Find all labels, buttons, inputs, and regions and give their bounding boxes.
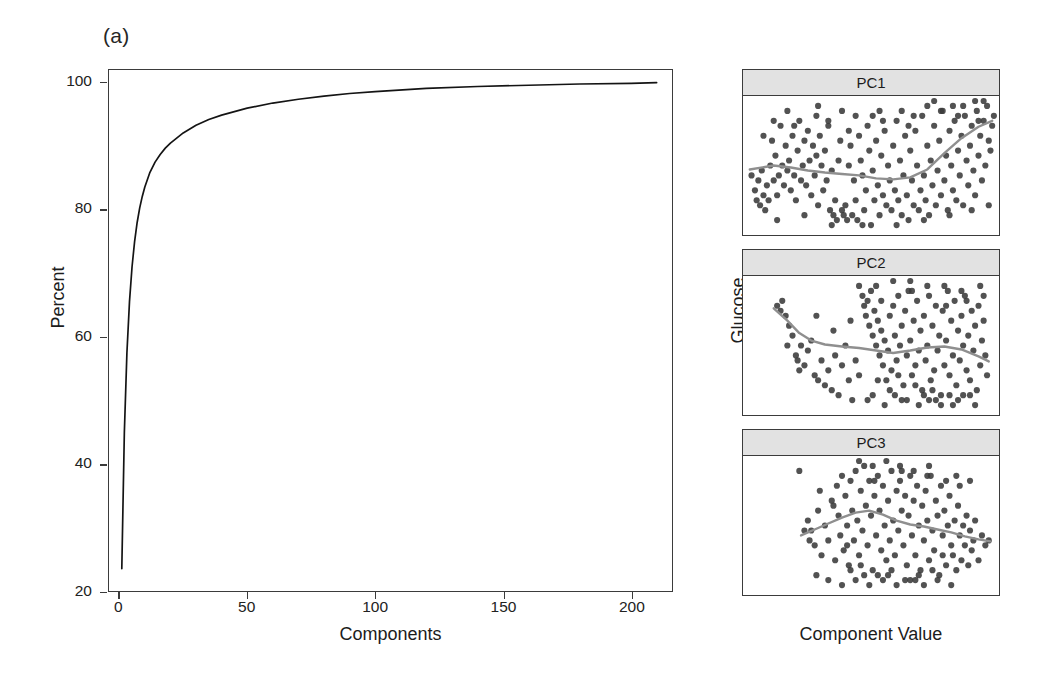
- scatter-point: [921, 217, 927, 223]
- scatter-point: [905, 123, 911, 129]
- panel-a-y-tick-label: 80: [46, 199, 92, 217]
- figure-root: (a) Percent Components 20406080100 05010…: [0, 0, 1050, 676]
- panel-a-plot-frame: [108, 69, 673, 592]
- scatter-point: [904, 397, 910, 403]
- scatter-point: [943, 303, 949, 309]
- scatter-point: [909, 532, 915, 538]
- scatter-point: [801, 362, 807, 368]
- scatter-point: [931, 123, 937, 129]
- scatter-point: [931, 367, 937, 373]
- scatter-point: [853, 113, 859, 119]
- scatter-point: [853, 577, 859, 583]
- panel-a-y-tick-label: 60: [46, 327, 92, 345]
- scatter-point: [969, 547, 975, 553]
- scatter-point: [892, 187, 898, 193]
- scatter-point: [953, 473, 959, 479]
- scatter-point: [969, 123, 975, 129]
- scatter-point: [945, 522, 951, 528]
- scatter-point: [897, 478, 903, 484]
- scatter-point: [892, 392, 898, 398]
- scatter-point: [817, 488, 823, 494]
- scatter-point: [934, 512, 940, 518]
- scatter-point: [865, 542, 871, 548]
- scatter-point: [950, 552, 956, 558]
- scatter-point: [859, 527, 865, 533]
- scatter-point: [830, 503, 836, 509]
- scatter-point: [933, 303, 939, 309]
- scatter-point: [868, 222, 874, 228]
- scatter-point: [760, 133, 766, 139]
- scatter-point: [815, 377, 821, 383]
- strip-label-pc1: PC1: [742, 69, 1000, 96]
- scatter-point: [805, 347, 811, 353]
- scatter-point: [882, 402, 888, 408]
- scatter-point: [873, 138, 879, 144]
- scatter-point: [870, 113, 876, 119]
- scatter-point: [941, 508, 947, 514]
- scatter-point: [866, 582, 872, 588]
- scatter-point: [883, 458, 889, 464]
- scatter-point: [858, 488, 864, 494]
- scatter-point: [813, 152, 819, 158]
- scatter-point: [904, 562, 910, 568]
- panel-a-x-tick-mark: [632, 592, 633, 599]
- scatter-point: [969, 308, 975, 314]
- scatter-point: [975, 303, 981, 309]
- scatter-point: [806, 537, 812, 543]
- scatter-point: [832, 352, 838, 358]
- scatter-point: [822, 148, 828, 154]
- scatter-point: [846, 377, 852, 383]
- scatter-point: [859, 222, 865, 228]
- scatter-point: [955, 397, 961, 403]
- scatter-point: [873, 532, 879, 538]
- scatter-point: [856, 133, 862, 139]
- panel-a-x-tick-label: 100: [345, 598, 405, 616]
- scatter-point: [825, 367, 831, 373]
- scatter-point: [957, 172, 963, 178]
- scatter-point: [981, 318, 987, 324]
- scatter-point: [827, 207, 833, 213]
- scatter-point: [813, 313, 819, 319]
- scatter-point: [894, 582, 900, 588]
- scatter-point: [975, 118, 981, 124]
- scatter-point: [791, 172, 797, 178]
- scatter-point: [991, 113, 997, 119]
- scatter-point: [929, 182, 935, 188]
- panel-a-y-tick-label: 20: [46, 582, 92, 600]
- scatter-point: [863, 313, 869, 319]
- scatter-point: [963, 512, 969, 518]
- scatter-point: [940, 308, 946, 314]
- scatter-point: [870, 332, 876, 338]
- scatter-point: [897, 342, 903, 348]
- scatter-point: [825, 537, 831, 543]
- scatter-point: [982, 162, 988, 168]
- scatter-point: [784, 342, 790, 348]
- scatter-point: [975, 152, 981, 158]
- scatter-point: [955, 113, 961, 119]
- scatter-point: [969, 207, 975, 213]
- panel-a-y-tick-mark: [100, 82, 107, 83]
- scatter-point: [931, 547, 937, 553]
- scatter-point: [907, 473, 913, 479]
- scatter-point: [905, 512, 911, 518]
- scatter-point: [890, 278, 896, 284]
- scatter-point: [866, 323, 872, 329]
- scatter-point: [938, 108, 944, 114]
- scatter-point: [772, 152, 778, 158]
- scatter-point: [839, 582, 845, 588]
- scatter-point: [885, 498, 891, 504]
- scatter-point: [895, 293, 901, 299]
- scatter-point: [870, 567, 876, 573]
- scatter-point: [875, 473, 881, 479]
- scatter-point: [895, 527, 901, 533]
- scatter-point: [853, 197, 859, 203]
- scatter-point: [829, 222, 835, 228]
- scatter-point: [933, 498, 939, 504]
- scatter-point: [946, 392, 952, 398]
- scatter-point: [844, 542, 850, 548]
- scatter-point: [923, 488, 929, 494]
- scatter-point: [894, 118, 900, 124]
- scatter-svg-pc2: [743, 276, 999, 415]
- scatter-point: [977, 133, 983, 139]
- scatter-point: [916, 402, 922, 408]
